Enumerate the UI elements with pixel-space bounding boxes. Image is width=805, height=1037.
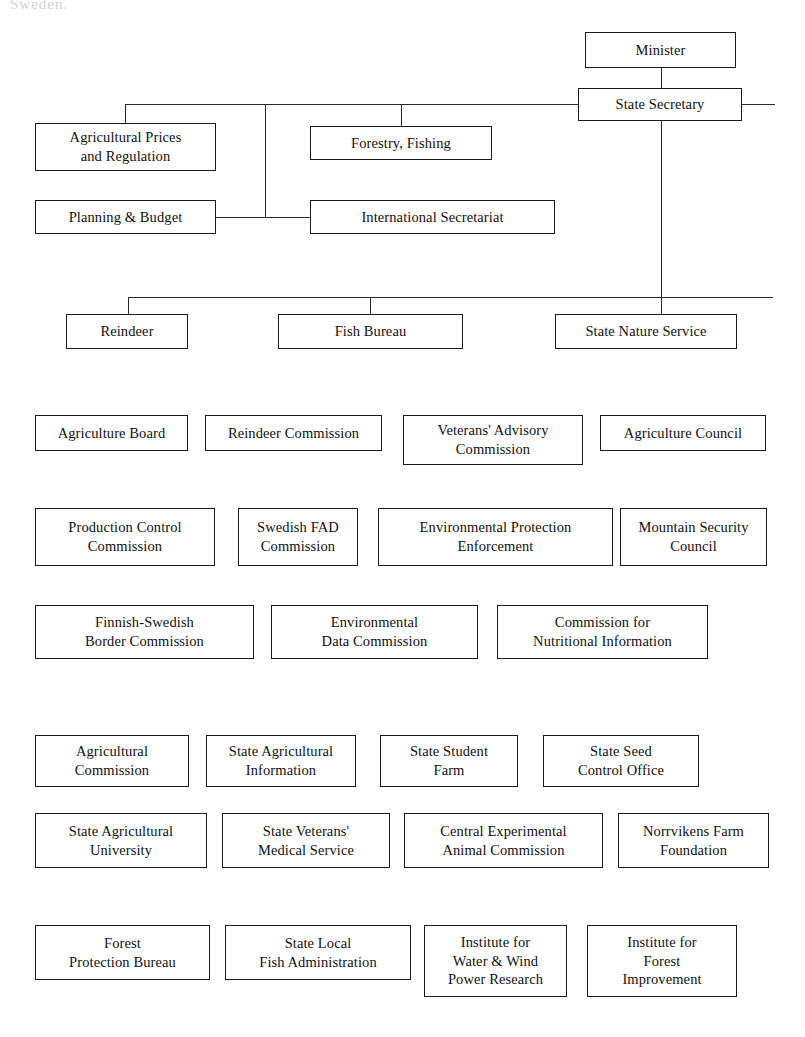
cut-off-heading-text: Sweden.: [10, 0, 68, 13]
org-box-forestry-fishing[interactable]: Forestry, Fishing: [310, 126, 492, 160]
org-box-forest-protection[interactable]: Forest Protection Bureau: [35, 925, 210, 980]
org-box-institute-forest-improve[interactable]: Institute for Forest Improvement: [587, 925, 737, 997]
org-box-central-experimental-animal[interactable]: Central Experimental Animal Commission: [404, 813, 603, 868]
org-box-state-veterans-medical[interactable]: State Veterans' Medical Service: [222, 813, 390, 868]
connector-drop-forestry-fishing: [401, 104, 402, 126]
org-box-production-control[interactable]: Production Control Commission: [35, 508, 215, 566]
org-box-planning-budget[interactable]: Planning & Budget: [35, 200, 216, 234]
org-box-agricultural-commission[interactable]: Agricultural Commission: [35, 735, 189, 787]
org-box-state-secretary[interactable]: State Secretary: [578, 88, 742, 121]
org-box-state-student-farm[interactable]: State Student Farm: [380, 735, 518, 787]
org-box-environmental-protection[interactable]: Environmental Protection Enforcement: [378, 508, 613, 566]
org-box-reindeer-commission[interactable]: Reindeer Commission: [205, 415, 382, 451]
org-box-state-local-fish[interactable]: State Local Fish Administration: [225, 925, 411, 980]
org-box-state-nature-service[interactable]: State Nature Service: [555, 314, 737, 349]
org-box-fish-bureau[interactable]: Fish Bureau: [278, 314, 463, 349]
org-box-environmental-data[interactable]: Environmental Data Commission: [271, 605, 478, 659]
org-box-nutritional-information[interactable]: Commission for Nutritional Information: [497, 605, 708, 659]
org-box-agricultural-prices[interactable]: Agricultural Prices and Regulation: [35, 123, 216, 171]
connector-secretary-right-stub: [742, 104, 775, 105]
org-box-veterans-advisory[interactable]: Veterans' Advisory Commission: [403, 415, 583, 465]
org-box-state-agricultural-univ[interactable]: State Agricultural University: [35, 813, 207, 868]
connector-drop-reindeer: [128, 297, 129, 315]
org-box-mountain-security[interactable]: Mountain Security Council: [620, 508, 767, 566]
connector-secretary-down-to-second-bus: [661, 121, 662, 314]
org-box-swedish-fad[interactable]: Swedish FAD Commission: [238, 508, 358, 566]
org-box-state-seed-control[interactable]: State Seed Control Office: [543, 735, 699, 787]
org-box-state-agricultural-info[interactable]: State Agricultural Information: [206, 735, 356, 787]
connector-minister-to-secretary: [661, 68, 662, 88]
org-box-institute-water-wind[interactable]: Institute for Water & Wind Power Researc…: [424, 925, 567, 997]
connector-drop-fish-bureau: [370, 297, 371, 315]
org-box-minister[interactable]: Minister: [585, 32, 736, 68]
connector-drop-agricultural-prices: [125, 104, 126, 123]
connector-top-bus-horizontal: [125, 104, 578, 105]
org-box-finnish-swedish-border[interactable]: Finnish-Swedish Border Commission: [35, 605, 254, 659]
connector-planning-to-column: [216, 217, 266, 218]
connector-second-bus-horizontal: [128, 297, 773, 298]
org-box-international-secretariat[interactable]: International Secretariat: [310, 200, 555, 234]
org-box-agriculture-board[interactable]: Agriculture Board: [35, 415, 188, 451]
org-box-agriculture-council[interactable]: Agriculture Council: [600, 415, 766, 451]
org-box-norrvikens-farm[interactable]: Norrvikens Farm Foundation: [618, 813, 769, 868]
org-box-reindeer[interactable]: Reindeer: [66, 314, 188, 349]
connector-column-to-international: [265, 217, 311, 218]
connector-drop-division-column: [265, 104, 266, 217]
organizational-chart: Sweden. MinisterState SecretaryAgricultu…: [0, 0, 805, 1037]
